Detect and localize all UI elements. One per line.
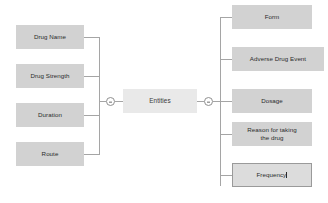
node-adverse-drug-event[interactable]: Adverse Drug Event [232, 47, 324, 71]
diagram-canvas: Drug Name Drug Strength Duration Route E… [0, 0, 328, 203]
node-form[interactable]: Form [232, 5, 312, 29]
node-label: Entities [149, 97, 170, 105]
node-dosage[interactable]: Dosage [232, 89, 312, 113]
connector-left-spine [99, 37, 100, 155]
node-label: Duration [38, 111, 62, 119]
connector-right-4 [220, 134, 232, 135]
node-label: Reason for taking the drug [247, 126, 296, 142]
connector-right-5 [220, 175, 232, 176]
node-label: Route [42, 150, 59, 158]
node-label: Frequency [257, 171, 287, 179]
node-label: Drug Strength [30, 72, 69, 80]
connector-left-4 [84, 154, 100, 155]
connector-right-3 [220, 101, 232, 102]
node-label: Form [265, 13, 280, 21]
node-label: Dosage [261, 97, 283, 105]
node-route[interactable]: Route [16, 142, 84, 166]
connector-left-2 [84, 76, 100, 77]
node-label: Drug Name [34, 33, 66, 41]
node-drug-strength[interactable]: Drug Strength [16, 64, 84, 88]
collapse-minus-icon-left[interactable] [106, 97, 115, 106]
connector-left-root-stub [115, 101, 123, 102]
node-drug-name[interactable]: Drug Name [16, 25, 84, 49]
connector-left-1 [84, 37, 100, 38]
node-duration[interactable]: Duration [16, 103, 84, 127]
node-label: Adverse Drug Event [250, 55, 306, 63]
collapse-minus-icon-right[interactable] [204, 97, 213, 106]
text-cursor-icon [286, 172, 287, 178]
node-frequency[interactable]: Frequency [232, 163, 312, 187]
node-entities-root[interactable]: Entities [123, 89, 197, 113]
connector-right-2 [220, 59, 232, 60]
node-reason-for-taking-the-drug[interactable]: Reason for taking the drug [232, 122, 312, 146]
connector-left-3 [84, 115, 100, 116]
connector-right-1 [220, 17, 232, 18]
connector-right-root-stub [197, 101, 204, 102]
